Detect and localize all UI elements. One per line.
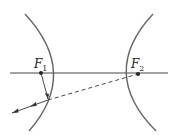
focus-1-label: F1 [33,57,47,73]
dashed-extension [48,74,138,100]
reflected-arrowhead-end-icon [12,109,19,114]
focus-2-label: F2 [130,57,144,73]
reflected-arrowhead-mid-icon [30,102,37,107]
incident-arrowhead-icon [45,93,49,99]
hyperbola-diagram: F1 F2 [0,0,176,135]
